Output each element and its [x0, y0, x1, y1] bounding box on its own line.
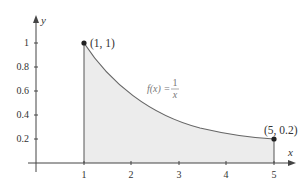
x-tick-5: 5: [272, 169, 277, 180]
y-tick-0.2: 0.2: [17, 133, 30, 144]
function-denominator: x: [172, 89, 178, 100]
point-5-0.2: [271, 136, 276, 141]
x-tick-1: 1: [82, 169, 87, 180]
point-1-1: [81, 40, 86, 45]
y-tick-0.6: 0.6: [17, 85, 30, 96]
y-axis-label: y: [40, 14, 46, 26]
shaded-region: [84, 43, 274, 163]
y-tick-0.8: 0.8: [17, 61, 30, 72]
area-under-curve-diagram: 1 2 3 4 5 1 0.8 0.6 0.4 0.2 x y (1, 1) (…: [0, 0, 308, 185]
x-tick-3: 3: [177, 169, 182, 180]
y-tick-0.4: 0.4: [17, 109, 30, 120]
function-label: f(x) =: [147, 83, 170, 95]
x-tick-2: 2: [129, 169, 134, 180]
x-axis-arrow-icon: [288, 160, 296, 166]
y-tick-1: 1: [24, 37, 29, 48]
function-numerator: 1: [173, 77, 178, 88]
y-axis-arrow-icon: [33, 15, 39, 23]
point-label-1-1: (1, 1): [90, 37, 115, 50]
point-label-5-0.2: (5, 0.2): [264, 124, 298, 137]
x-axis-label: x: [287, 146, 293, 158]
x-tick-4: 4: [224, 169, 229, 180]
